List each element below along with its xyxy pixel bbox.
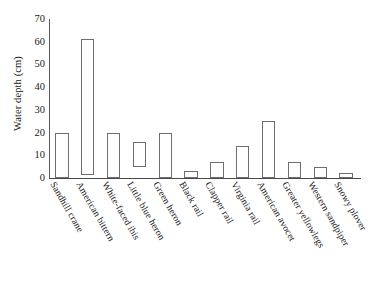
bar [81,39,94,174]
y-axis-line [49,19,50,179]
bar [210,162,223,178]
y-tick-label: 30 [35,105,46,116]
bar [288,162,301,178]
x-category-label: Black rail [178,180,206,218]
water-depth-bar-chart: Water depth (cm) 010203040506070 Sandhil… [0,0,372,286]
bar [55,133,68,178]
bar [159,133,172,178]
bar [236,146,249,178]
y-axis-title: Water depth (cm) [8,0,26,186]
bar [314,167,327,178]
plot-area: 010203040506070 [49,19,359,178]
y-tick-label: 40 [35,82,46,93]
y-axis-title-text: Water depth (cm) [12,56,23,131]
y-tick-label: 50 [35,59,46,70]
bar [339,173,352,178]
x-axis-line [49,178,361,179]
y-tick-label: 0 [40,173,45,184]
bar [262,121,275,178]
bar [133,142,146,167]
bar [107,133,120,178]
y-tick-label: 20 [35,127,46,138]
y-tick-label: 10 [35,150,46,161]
y-tick-label: 70 [35,14,46,25]
x-axis-category-labels: Sandhill craneAmerican bitternWhite-face… [49,180,372,286]
bar [184,171,197,178]
y-tick-label: 60 [35,36,46,47]
